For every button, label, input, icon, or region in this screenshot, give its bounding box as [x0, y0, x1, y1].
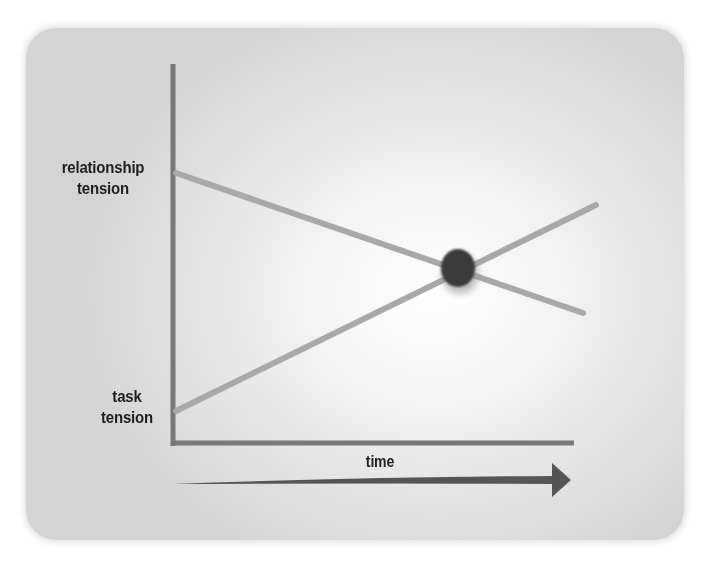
task-label-line-1: task — [87, 386, 166, 407]
task-tension-line — [176, 205, 596, 411]
task-label-line-2: tension — [87, 407, 166, 428]
relationship-label-line-1: relationship — [46, 157, 160, 178]
time-axis-label: time — [354, 451, 407, 472]
diagram-stage: relationship tension task tension time — [0, 0, 711, 562]
tension-chart — [0, 0, 711, 562]
task-tension-label: task tension — [87, 386, 166, 428]
intersection-dot-icon — [441, 249, 475, 287]
relationship-label-line-2: tension — [46, 178, 160, 199]
relationship-tension-label: relationship tension — [46, 157, 160, 199]
